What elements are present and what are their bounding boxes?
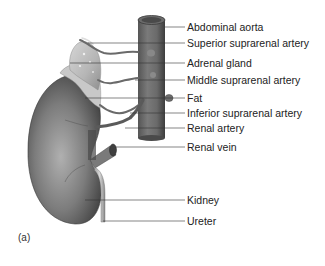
label-superior-suprarenal-artery: Superior suprarenal artery xyxy=(187,37,309,49)
label-renal-vein: Renal vein xyxy=(187,141,237,153)
label-abdominal-aorta: Abdominal aorta xyxy=(187,21,263,33)
renal-vein-shape xyxy=(88,130,117,168)
label-renal-artery: Renal artery xyxy=(187,122,244,134)
label-adrenal-gland: Adrenal gland xyxy=(187,57,252,69)
label-ureter: Ureter xyxy=(187,215,216,227)
label-kidney: Kidney xyxy=(187,194,219,206)
label-fat: Fat xyxy=(187,92,202,104)
abdominal-aorta-shape xyxy=(138,16,173,142)
label-middle-suprarenal-artery: Middle suprarenal artery xyxy=(187,74,300,86)
label-inferior-suprarenal-artery: Inferior suprarenal artery xyxy=(187,107,302,119)
panel-label: (a) xyxy=(18,232,30,243)
